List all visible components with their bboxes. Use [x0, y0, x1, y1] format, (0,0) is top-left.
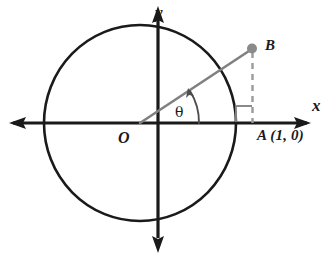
right-angle-icon — [236, 106, 252, 122]
point-a-label: A (1, 0) — [257, 128, 304, 143]
origin-label: O — [118, 130, 130, 146]
point-b-dot-icon — [247, 44, 257, 54]
unit-circle-figure: y x O B A (1, 0) θ — [0, 0, 329, 259]
y-axis-label: y — [155, 4, 163, 21]
arc-arrow-icon — [190, 91, 199, 123]
angle-theta-label: θ — [175, 105, 183, 119]
point-b-label: B — [265, 38, 275, 53]
arrow-down-icon — [152, 236, 164, 253]
angle-sweep-arc-group — [186, 88, 199, 123]
x-axis-label: x — [312, 97, 321, 114]
